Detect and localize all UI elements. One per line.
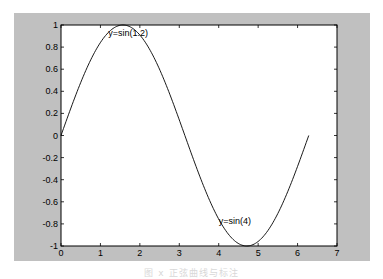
y-tick-label: -0.2 xyxy=(42,153,58,163)
x-tick-label: 7 xyxy=(334,248,339,258)
y-tick-label: 0 xyxy=(53,131,58,141)
x-tick-label: 0 xyxy=(58,248,63,258)
x-tick-label: 5 xyxy=(256,248,261,258)
y-axis-tick-labels: 10.80.60.40.20-0.2-0.4-0.6-0.8-1 xyxy=(42,20,58,251)
x-axis-tick-labels: 01234567 xyxy=(58,248,339,258)
y-tick-label: 0.8 xyxy=(45,42,58,52)
sine-chart: 01234567 10.80.60.40.20-0.2-0.4-0.6-0.8-… xyxy=(0,0,383,279)
y-tick-label: -0.8 xyxy=(42,219,58,229)
x-tick-label: 2 xyxy=(137,248,142,258)
y-tick-label: 0.2 xyxy=(45,108,58,118)
y-tick-label: -0.6 xyxy=(42,197,58,207)
x-tick-label: 4 xyxy=(216,248,221,258)
y-tick-label: -0.4 xyxy=(42,175,58,185)
x-tick-label: 1 xyxy=(98,248,103,258)
annotation-label: y=sin(4) xyxy=(219,216,251,226)
y-tick-label: 1 xyxy=(53,20,58,30)
y-tick-label: -1 xyxy=(50,241,58,251)
x-tick-label: 6 xyxy=(295,248,300,258)
y-tick-label: 0.6 xyxy=(45,64,58,74)
figure-caption: 图 x 正弦曲线与标注 xyxy=(0,266,383,279)
x-tick-label: 3 xyxy=(177,248,182,258)
y-tick-label: 0.4 xyxy=(45,86,58,96)
axes-area xyxy=(61,25,337,246)
annotation-label: y=sin(1.2) xyxy=(108,28,148,38)
